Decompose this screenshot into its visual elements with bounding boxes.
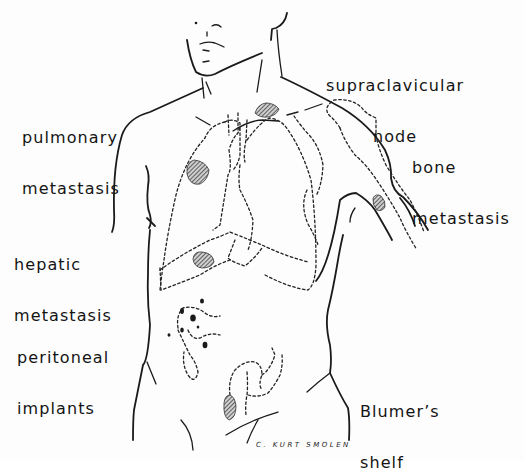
blumers-shelf-lesion (224, 395, 236, 420)
label-peritoneal-implants: peritoneal implants (17, 315, 109, 451)
supraclavicular-lesion (255, 103, 279, 117)
label-pulmonary-metastasis: pulmonary metastasis (22, 95, 120, 231)
label-blumers-shelf: Blumer’s shelf (360, 369, 440, 472)
label-bone-metastasis: bone metastasis (412, 125, 510, 261)
peritoneal-implant-dots (168, 299, 208, 349)
head-outline (187, 13, 287, 98)
lung-outlines (160, 113, 316, 290)
pulmonary-lesion (187, 160, 209, 184)
artist-signature: C. KURT SMOLEN (256, 441, 351, 449)
hepatic-lesion (193, 252, 214, 268)
